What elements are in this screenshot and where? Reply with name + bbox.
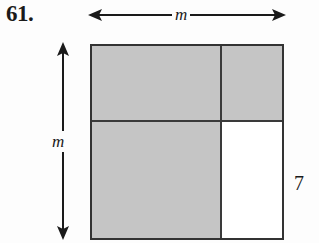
width-label: m [172,6,190,23]
region-bottom-left-shaded [92,122,222,238]
geometry-figure: 61. m m 7 [0,0,319,243]
height-label: m [49,131,67,152]
region-bottom-right-unshaded [222,122,282,238]
region-top-left-shaded [92,46,222,122]
region-top-right-shaded [222,46,282,122]
right-side-label: 7 [294,172,304,195]
square-outline [90,44,284,240]
problem-number: 61. [6,1,33,27]
